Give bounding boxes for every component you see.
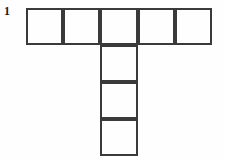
net-square	[101, 120, 137, 155]
net-square	[64, 9, 99, 44]
net-square	[101, 46, 137, 81]
net-square	[176, 9, 211, 44]
figure-container: 1	[0, 0, 225, 161]
net-square	[139, 9, 174, 44]
net-square	[101, 9, 137, 44]
net-square	[27, 9, 62, 44]
net-cell-group	[27, 9, 211, 155]
polyomino-net-diagram	[0, 0, 225, 161]
net-square	[101, 83, 137, 118]
